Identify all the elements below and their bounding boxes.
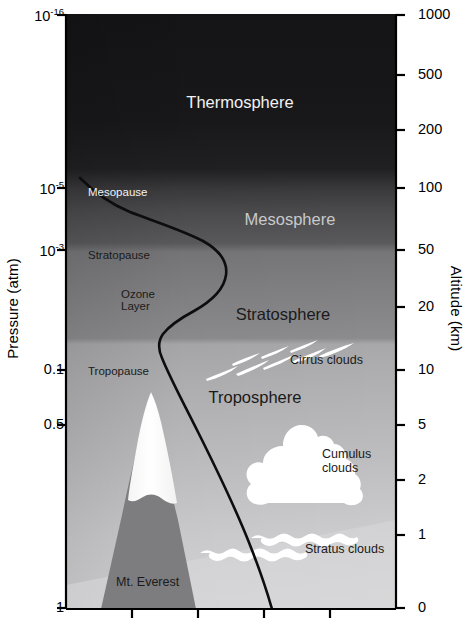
altitude-axis-title: Altitude (km) <box>448 249 465 369</box>
altitude-tick-label: 200 <box>418 122 442 137</box>
pressure-tick-label: 10-16 <box>34 7 64 23</box>
sky-background <box>66 14 396 609</box>
altitude-tick-label: 1 <box>418 527 426 542</box>
atmosphere-diagram: Pressure (atm) Altitude (km) 10-1610-510… <box>0 0 475 628</box>
altitude-tick-label: 10 <box>418 362 434 377</box>
altitude-tick-label: 50 <box>418 242 434 257</box>
pressure-tick-label: 10-5 <box>39 180 64 196</box>
altitude-tick-label: 2 <box>418 472 426 487</box>
altitude-tick-label: 5 <box>418 417 426 432</box>
bottom-axis-ticks <box>132 609 330 618</box>
pressure-tick-exponent: -16 <box>50 6 64 17</box>
left-axis-ticks <box>57 15 66 608</box>
pressure-tick-label: 0.1 <box>44 362 64 377</box>
pressure-tick-label: 0.5 <box>44 417 64 432</box>
altitude-tick-label: 500 <box>418 67 442 82</box>
pressure-tick-exponent: -5 <box>56 179 64 190</box>
altitude-tick-label: 20 <box>418 299 434 314</box>
altitude-tick-label: 1000 <box>418 7 450 22</box>
altitude-tick-label: 0 <box>418 600 426 615</box>
right-axis-ticks <box>396 15 405 608</box>
plot-canvas <box>0 0 475 628</box>
pressure-tick-label: 1 <box>56 600 64 615</box>
pressure-tick-exponent: -3 <box>56 241 64 252</box>
pressure-axis-title: Pressure (atm) <box>4 249 21 369</box>
altitude-tick-label: 100 <box>418 180 442 195</box>
pressure-tick-label: 10-3 <box>39 242 64 258</box>
